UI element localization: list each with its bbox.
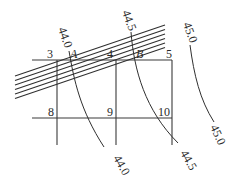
contour-label-44-5-bottom: 44.5	[177, 148, 200, 173]
contour-45-0	[190, 45, 214, 122]
corner-label-9: 9	[107, 105, 113, 119]
corner-label-5: 5	[166, 47, 172, 61]
corner-label-10: 10	[158, 105, 170, 119]
corner-label-3: 3	[47, 47, 53, 61]
point-label-b: B	[136, 47, 144, 61]
point-label-a: A	[69, 47, 78, 61]
contour-label-44-0-top: 44.0	[55, 25, 75, 50]
contour-labels: 44.0 44.5 45.0 44.0 44.5 45.0	[55, 8, 229, 177]
corner-label-4: 4	[107, 47, 113, 61]
grid-corner-labels: 3 4 5 8 9 10	[47, 47, 172, 119]
contour-grid-diagram: 3 4 5 8 9 10 A B 44.0 44.5 45.0 44.0 44.…	[0, 0, 237, 191]
contour-label-45-0-top: 45.0	[180, 20, 200, 45]
contour-label-44-0-bottom: 44.0	[110, 153, 133, 178]
contour-label-44-5-top: 44.5	[119, 8, 139, 33]
corner-label-8: 8	[48, 105, 54, 119]
contour-label-45-0-bottom: 45.0	[207, 122, 229, 147]
grid	[32, 60, 172, 145]
